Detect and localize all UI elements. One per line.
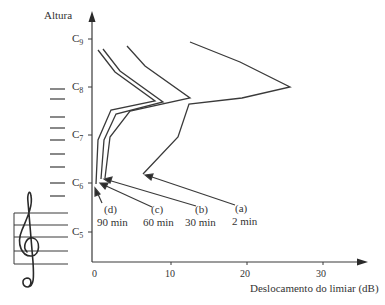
curve-b-30min [105,46,190,178]
y-tick-c5: C5 [72,225,83,242]
curves [96,42,290,184]
curve-label-b: (b) [195,203,208,215]
y-tick-c7: C7 [72,128,83,145]
y-tick-c8: C8 [72,80,83,97]
y-axis-arrow-icon [89,11,96,22]
x-tick-10: 10 [165,268,175,280]
x-axis-title: Deslocamento do limiar (dB) [250,282,379,294]
threshold-shift-diagram [0,0,385,305]
curve-label-a: (a) [235,202,247,214]
y-tick-c9: C9 [72,32,83,49]
x-tick-0: 0 [92,268,97,280]
curve-c-60min [101,49,163,179]
keyboard-dashes [50,89,65,196]
y-tick-c6: C6 [72,176,83,193]
y-axis-title: Altura [44,9,72,21]
x-tick-30: 30 [316,268,326,280]
curve-label-d: (d) [104,203,117,215]
music-staff [14,213,68,264]
curve-time-b: 30 min [185,216,216,228]
curve-time-d: 90 min [97,216,128,228]
curve-time-c: 60 min [143,216,174,228]
curve-a-2min [143,42,290,174]
x-axis-arrow-icon [357,259,368,266]
curve-label-c: (c) [151,203,163,215]
x-tick-20: 20 [240,268,250,280]
treble-clef-icon [20,192,39,287]
curve-time-a: 2 min [232,215,257,227]
